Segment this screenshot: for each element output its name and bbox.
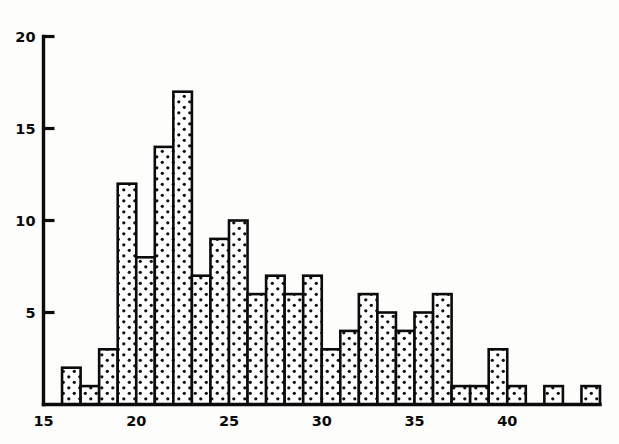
histogram-chart: 5101520 152025303540: [0, 0, 619, 444]
histogram-bar: [62, 368, 81, 405]
histogram-bar: [81, 386, 100, 404]
histogram-bar: [470, 386, 489, 404]
histogram-bar: [340, 331, 359, 405]
y-tick-label: 5: [25, 305, 35, 321]
x-tick-label: 25: [219, 413, 239, 429]
y-tick-label: 15: [15, 121, 35, 137]
y-tick-label: 10: [15, 213, 35, 229]
histogram-bar: [136, 257, 155, 404]
x-tick-label: 35: [404, 413, 424, 429]
histogram-bar: [155, 147, 174, 405]
histogram-bar: [285, 294, 304, 404]
bars-group: [62, 92, 600, 405]
histogram-bar: [489, 349, 508, 404]
x-tick-label: 15: [33, 413, 53, 429]
histogram-bar: [210, 239, 229, 405]
histogram-bar: [229, 221, 248, 405]
histogram-bar: [359, 294, 378, 404]
histogram-bar: [415, 313, 434, 405]
histogram-bar: [266, 276, 285, 405]
histogram-bar: [544, 386, 563, 404]
histogram-bar: [173, 92, 192, 405]
histogram-bar: [99, 349, 118, 404]
histogram-bar: [581, 386, 600, 404]
histogram-bar: [322, 349, 341, 404]
histogram-bar: [192, 276, 211, 405]
histogram-figure: 5101520 152025303540: [0, 0, 619, 444]
y-axis-tick-labels: 5101520: [15, 29, 35, 321]
histogram-bar: [507, 386, 526, 404]
histogram-bar: [303, 276, 322, 405]
histogram-bar: [377, 313, 396, 405]
x-tick-label: 20: [126, 413, 146, 429]
y-tick-label: 20: [15, 29, 35, 45]
histogram-bar: [396, 331, 415, 405]
histogram-bar: [452, 386, 471, 404]
histogram-bar: [433, 294, 452, 404]
histogram-bar: [118, 184, 137, 405]
x-axis-tick-labels: 152025303540: [33, 413, 517, 429]
histogram-bar: [248, 294, 267, 404]
x-tick-label: 40: [497, 413, 517, 429]
x-tick-label: 30: [312, 413, 332, 429]
